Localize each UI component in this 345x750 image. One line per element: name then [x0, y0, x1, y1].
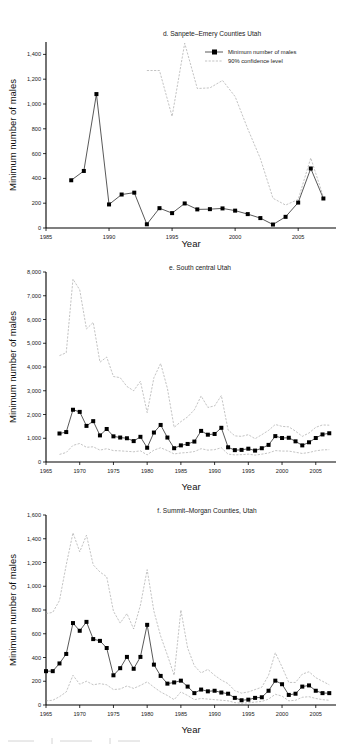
data-point-marker	[57, 661, 61, 665]
x-axis-tick-label: 1965	[40, 711, 52, 717]
legend-series-marker	[212, 50, 217, 55]
data-point-marker	[206, 689, 210, 693]
data-point-marker	[327, 691, 331, 695]
y-axis-tick-label: 1,200	[27, 560, 41, 566]
x-axis-tick-label: 1985	[175, 711, 187, 717]
data-point-marker	[199, 688, 203, 692]
data-point-marker	[91, 637, 95, 641]
data-point-marker	[57, 432, 61, 436]
data-point-marker	[192, 440, 196, 444]
x-axis-title: Year	[181, 238, 200, 249]
y-axis-tick-label: 2,000	[27, 412, 41, 418]
data-point-marker	[294, 439, 298, 443]
x-axis-tick-label: 1990	[208, 711, 220, 717]
y-axis-tick-label: 0	[38, 702, 41, 708]
confidence-interval-line	[59, 443, 329, 455]
confidence-interval-line	[59, 279, 329, 439]
data-point-marker	[246, 698, 250, 702]
data-point-marker	[71, 621, 75, 625]
data-point-marker	[186, 442, 190, 446]
data-point-marker	[321, 432, 325, 436]
data-point-marker	[267, 689, 271, 693]
figure-three-panel-population-trends: d. Sanpete–Emery Counties Utah0200400600…	[0, 0, 345, 750]
y-axis-tick-label: 7,000	[27, 293, 41, 299]
data-point-marker	[98, 639, 102, 643]
confidence-interval-line	[46, 533, 329, 693]
x-axis-tick-label: 2000	[276, 468, 288, 474]
data-point-marker	[125, 436, 129, 440]
data-point-marker	[233, 448, 237, 452]
data-point-marker	[240, 698, 244, 702]
data-point-marker	[219, 691, 223, 695]
data-point-marker	[192, 691, 196, 695]
data-point-marker	[314, 436, 318, 440]
chart-panel-e: e. South central Utah01,0002,0003,0004,0…	[0, 250, 345, 495]
data-point-marker	[183, 201, 187, 205]
x-axis-title: Year	[181, 481, 200, 492]
data-point-marker	[132, 667, 136, 671]
data-point-marker	[44, 669, 48, 673]
data-point-marker	[71, 408, 75, 412]
y-axis-tick-label: 1,000	[27, 435, 41, 441]
legend-series-label: Minimum number of males	[228, 49, 296, 55]
data-point-marker	[157, 206, 161, 210]
data-point-marker	[240, 448, 244, 452]
y-axis-tick-label: 3,000	[27, 388, 41, 394]
data-point-marker	[91, 419, 95, 423]
data-point-marker	[132, 191, 136, 195]
data-point-marker	[186, 685, 190, 689]
y-axis-tick-label: 8,000	[27, 269, 41, 275]
data-point-marker	[267, 443, 271, 447]
data-point-marker	[138, 435, 142, 439]
data-point-marker	[233, 696, 237, 700]
data-point-marker	[284, 215, 288, 219]
x-axis-tick-label: 1980	[141, 711, 153, 717]
data-point-marker	[309, 166, 313, 170]
data-point-marker	[84, 424, 88, 428]
data-point-marker	[321, 691, 325, 695]
x-axis-tick-label: 1995	[166, 234, 178, 240]
data-point-marker	[199, 429, 203, 433]
x-axis-tick-label: 1990	[103, 234, 115, 240]
data-point-marker	[84, 620, 88, 624]
x-axis-tick-label: 2005	[292, 234, 304, 240]
data-point-marker	[321, 196, 325, 200]
data-point-marker	[172, 680, 176, 684]
chart-canvas-e: e. South central Utah01,0002,0003,0004,0…	[0, 250, 345, 495]
data-point-marker	[159, 423, 163, 427]
y-axis-tick-label: 800	[32, 126, 41, 132]
data-point-marker	[280, 682, 284, 686]
x-axis-tick-label: 1970	[73, 711, 85, 717]
data-point-marker	[179, 443, 183, 447]
confidence-interval-line	[147, 43, 324, 205]
data-point-marker	[64, 430, 68, 434]
data-point-marker	[82, 169, 86, 173]
data-point-marker	[145, 446, 149, 450]
chart-panel-f: f. Summit–Morgan Counties, Utah020040060…	[0, 495, 345, 740]
y-axis-tick-label: 1,400	[27, 51, 41, 57]
data-point-marker	[107, 202, 111, 206]
x-axis-tick-label: 2005	[310, 468, 322, 474]
data-point-marker	[253, 696, 257, 700]
y-axis-tick-label: 1,600	[27, 512, 41, 518]
y-axis-title: Minimum number of males	[7, 554, 18, 666]
legend-ci-label: 90% confidence level	[228, 58, 283, 64]
y-axis-title: Minimum number of males	[7, 311, 18, 423]
data-point-marker	[94, 92, 98, 96]
data-point-marker	[213, 432, 217, 436]
data-point-marker	[118, 666, 122, 670]
x-axis-tick-label: 1985	[40, 234, 52, 240]
x-axis-tick-label: 1995	[242, 711, 254, 717]
data-point-marker	[98, 433, 102, 437]
y-axis-tick-label: 600	[32, 631, 41, 637]
data-point-marker	[111, 434, 115, 438]
data-point-marker	[152, 663, 156, 667]
data-point-marker	[206, 433, 210, 437]
data-point-marker	[219, 426, 223, 430]
y-axis-tick-label: 200	[32, 678, 41, 684]
data-point-marker	[300, 443, 304, 447]
data-point-marker	[246, 212, 250, 216]
y-axis-tick-label: 400	[32, 175, 41, 181]
y-axis-tick-label: 0	[38, 225, 41, 231]
data-point-marker	[118, 436, 122, 440]
